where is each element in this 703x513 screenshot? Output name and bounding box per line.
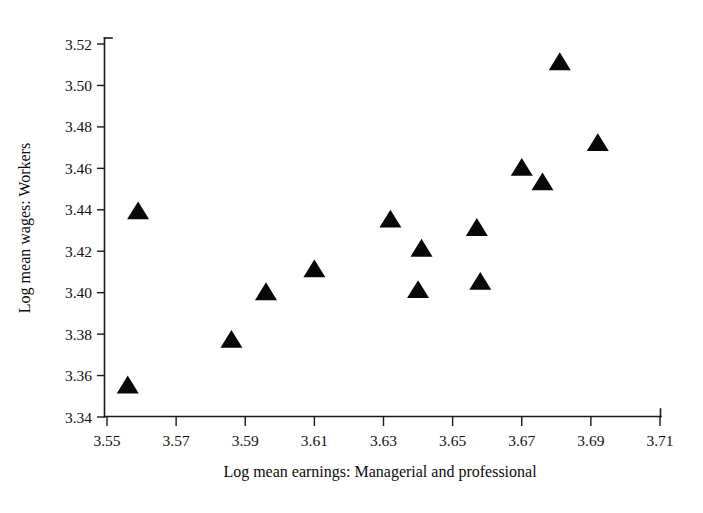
y-tick-label: 3.44 <box>65 201 92 218</box>
x-tick-label: 3.59 <box>232 432 259 449</box>
x-tick-label: 3.67 <box>508 432 535 449</box>
data-point-marker <box>531 173 553 191</box>
y-tick-label: 3.48 <box>65 118 92 135</box>
data-point-marker <box>407 280 429 298</box>
y-tick-label: 3.52 <box>65 36 92 53</box>
x-tick-label: 3.71 <box>646 432 673 449</box>
y-tick-label: 3.36 <box>65 367 92 384</box>
data-point-marker <box>379 210 401 228</box>
x-tick-label: 3.65 <box>439 432 466 449</box>
y-axis-ticks: 3.343.363.383.403.423.443.463.483.503.52 <box>65 36 105 426</box>
data-point-marker <box>220 330 242 348</box>
scatter-plot-figure: 3.343.363.383.403.423.443.463.483.503.52… <box>0 0 703 513</box>
data-point-marker <box>411 239 433 257</box>
plot-canvas: 3.343.363.383.403.423.443.463.483.503.52… <box>0 0 703 513</box>
y-tick-label: 3.50 <box>65 77 92 94</box>
x-axis-ticks: 3.553.573.593.613.633.653.673.693.71 <box>93 417 673 449</box>
data-point-marker <box>469 272 491 290</box>
x-tick-label: 3.63 <box>370 432 397 449</box>
y-tick-label: 3.40 <box>65 284 92 301</box>
x-tick-label: 3.61 <box>301 432 328 449</box>
y-tick-label: 3.38 <box>65 326 92 343</box>
x-tick-label: 3.69 <box>577 432 604 449</box>
data-point-marker <box>303 260 325 278</box>
x-tick-label: 3.55 <box>93 432 120 449</box>
y-tick-label: 3.42 <box>65 243 92 260</box>
y-tick-label: 3.46 <box>65 160 92 177</box>
x-axis-title: Log mean earnings: Managerial and profes… <box>223 463 537 481</box>
data-point-marker <box>127 202 149 220</box>
data-point-marker <box>117 376 139 394</box>
data-point-marker <box>587 133 609 151</box>
y-tick-label: 3.34 <box>65 409 92 426</box>
data-markers <box>117 52 609 393</box>
x-tick-label: 3.57 <box>163 432 190 449</box>
data-point-marker <box>255 282 277 300</box>
y-axis-title: Log mean wages: Workers <box>16 143 34 313</box>
data-point-marker <box>549 52 571 70</box>
data-point-marker <box>466 218 488 236</box>
data-point-marker <box>511 158 533 176</box>
